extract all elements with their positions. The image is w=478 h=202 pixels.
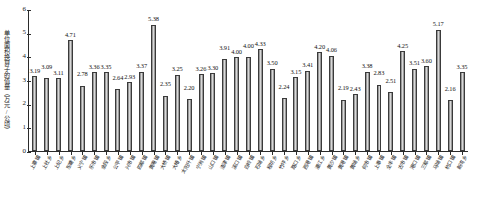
bar: [199, 10, 204, 151]
bar-value-label: 3.35: [457, 64, 468, 70]
bar-rect: [139, 72, 144, 151]
bar: [282, 10, 287, 151]
x-axis-labels: 上寨镇上社乡上纪乡东塘乡义宁镇乐市镇余段乡公平镇兴市镇四都镇黄庵镇大桥镇大椿乡太…: [28, 155, 474, 201]
bar-rect: [305, 71, 310, 151]
bar-value-label: 3.51: [409, 60, 420, 66]
bar: [104, 10, 109, 151]
bar-value-label: 3.09: [41, 64, 52, 70]
bar: [329, 10, 334, 151]
y-axis-tick-label: 1: [23, 124, 27, 131]
bar-rect: [104, 72, 109, 151]
bar-value-label: 2.78: [77, 71, 88, 77]
bar: [127, 10, 132, 151]
bar-value-label: 4.33: [255, 41, 266, 47]
bar-value-label: 3.50: [267, 60, 278, 66]
bar-rect: [377, 85, 382, 152]
bar-rect: [436, 30, 441, 151]
bar: [44, 10, 49, 151]
bar-rect: [210, 73, 215, 151]
bar-value-label: 4.06: [326, 47, 337, 53]
bar: [187, 10, 192, 151]
bar-value-label: 3.35: [101, 64, 112, 70]
bar: [424, 10, 429, 151]
bar: [460, 10, 465, 151]
y-axis-tick-label: 6: [23, 6, 27, 13]
bar-value-label: 3.11: [53, 70, 64, 76]
bar-value-label: 4.71: [65, 32, 76, 38]
y-axis-tick-label: 2: [23, 100, 27, 107]
bar-value-label: 4.25: [397, 43, 408, 49]
bar-value-label: 3.36: [89, 64, 100, 70]
bar-rect: [175, 75, 180, 151]
bar: [139, 10, 144, 151]
bar: [151, 10, 156, 151]
bars-layer: 3.193.093.114.712.783.363.352.642.933.37…: [29, 10, 468, 151]
bar-rect: [234, 57, 239, 151]
bar: [210, 10, 215, 151]
bar-value-label: 4.20: [314, 44, 325, 50]
plot-area: 0123456 3.193.093.114.712.783.363.352.64…: [28, 10, 468, 152]
y-axis-tick-label: 4: [23, 53, 27, 60]
bar: [32, 10, 37, 151]
bar-rect: [222, 59, 227, 151]
bar: [222, 10, 227, 151]
bar: [92, 10, 97, 151]
bar-rect: [246, 57, 251, 151]
bar-value-label: 3.91: [219, 45, 230, 51]
bar-rect: [412, 69, 417, 151]
bar: [270, 10, 275, 151]
bar-value-label: 2.43: [350, 86, 361, 92]
bar-value-label: 2.20: [184, 85, 195, 91]
bar: [234, 10, 239, 151]
bar-value-label: 2.51: [385, 78, 396, 84]
bar-rect: [400, 51, 405, 151]
y-axis-tick-label: 3: [23, 77, 27, 84]
bar-rect: [424, 66, 429, 151]
bar-value-label: 2.19: [338, 85, 349, 91]
y-axis-title: 单位面积换算子的值量（万元/公顷）: [0, 6, 13, 156]
bar-rect: [44, 78, 49, 151]
bar-value-label: 3.19: [29, 68, 40, 74]
bar: [175, 10, 180, 151]
bar: [448, 10, 453, 151]
bar: [377, 10, 382, 151]
bar-rect: [317, 52, 322, 151]
bar-rect: [329, 56, 334, 151]
bar: [365, 10, 370, 151]
bar-value-label: 3.38: [362, 63, 373, 69]
bar-rect: [127, 82, 132, 151]
bar-value-label: 3.30: [207, 65, 218, 71]
bar: [317, 10, 322, 151]
bar: [353, 10, 358, 151]
bar-rect: [293, 77, 298, 151]
bar-rect: [258, 49, 263, 151]
bar-value-label: 2.24: [279, 84, 290, 90]
bar: [80, 10, 85, 151]
bar-value-label: 3.25: [172, 66, 183, 72]
bar-value-label: 5.17: [433, 21, 444, 27]
y-axis-tick-label: 5: [23, 29, 27, 36]
bar-value-label: 2.64: [112, 75, 123, 81]
bar: [436, 10, 441, 151]
bar-value-label: 2.16: [445, 86, 456, 92]
bar-rect: [365, 72, 370, 151]
bar-value-label: 3.26: [196, 66, 207, 72]
bar-value-label: 4.00: [243, 43, 254, 49]
bar-rect: [32, 76, 37, 151]
bar-chart: 单位面积换算子的值量（万元/公顷） 0123456 3.193.093.114.…: [0, 0, 478, 202]
bar-rect: [56, 78, 61, 151]
bar-rect: [68, 40, 73, 151]
bar: [293, 10, 298, 151]
bar-value-label: 2.83: [374, 70, 385, 76]
bar-rect: [92, 72, 97, 151]
bar-rect: [151, 25, 156, 151]
bar-value-label: 3.15: [290, 69, 301, 75]
y-axis-tick-label: 0: [23, 148, 27, 155]
bar-rect: [460, 72, 465, 151]
bar: [305, 10, 310, 151]
bar-value-label: 3.41: [302, 62, 313, 68]
bar-value-label: 2.35: [160, 81, 171, 87]
bar: [246, 10, 251, 151]
bar-value-label: 5.38: [148, 16, 159, 22]
bar: [56, 10, 61, 151]
